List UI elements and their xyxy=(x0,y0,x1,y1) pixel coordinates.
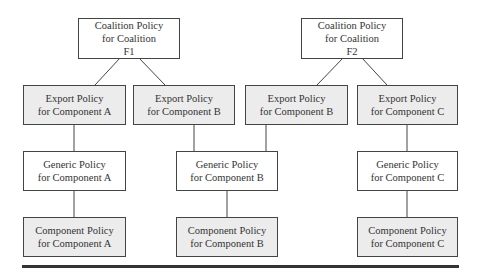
box-text-line: for Component C xyxy=(371,105,445,118)
box-text-line: for Component A xyxy=(38,171,112,184)
box-text-line: F1 xyxy=(123,45,134,58)
box-text-line: Generic Policy xyxy=(196,158,259,171)
box-text-line: Component Policy xyxy=(368,224,446,237)
box-text-line: for Component B xyxy=(190,237,264,250)
box-text-line: Export Policy xyxy=(45,92,103,105)
box-text-line: for Component B xyxy=(147,105,221,118)
component-policy-a-box: Component Policy for Component A xyxy=(23,217,126,257)
export-policy-a-box: Export Policy for Component A xyxy=(23,85,126,125)
component-policy-b-box: Component Policy for Component B xyxy=(176,217,278,257)
box-text-line: for Coalition xyxy=(102,32,156,45)
coalition-policy-f2-box: Coalition Policy for Coalition F2 xyxy=(301,18,403,59)
export-policy-b-f2-box: Export Policy for Component B xyxy=(245,85,348,125)
component-policy-c-box: Component Policy for Component C xyxy=(357,217,458,257)
box-text-line: Export Policy xyxy=(378,92,436,105)
bottom-rule-divider xyxy=(22,265,459,268)
box-text-line: Export Policy xyxy=(267,92,325,105)
box-text-line: Component Policy xyxy=(35,224,113,237)
box-text-line: Coalition Policy xyxy=(318,19,387,32)
box-text-line: Coalition Policy xyxy=(95,19,164,32)
box-text-line: Component Policy xyxy=(188,224,266,237)
box-text-line: for Component B xyxy=(190,171,264,184)
box-text-line: for Coalition xyxy=(325,32,379,45)
box-text-line: Generic Policy xyxy=(43,158,106,171)
export-policy-b-f1-box: Export Policy for Component B xyxy=(133,85,235,125)
box-text-line: Export Policy xyxy=(155,92,213,105)
generic-policy-a-box: Generic Policy for Component A xyxy=(23,151,126,191)
box-text-line: for Component C xyxy=(371,171,445,184)
box-text-line: for Component C xyxy=(371,237,445,250)
box-text-line: F2 xyxy=(346,45,357,58)
export-policy-c-box: Export Policy for Component C xyxy=(357,85,458,125)
box-text-line: for Component A xyxy=(38,237,112,250)
generic-policy-b-box: Generic Policy for Component B xyxy=(176,151,278,191)
box-text-line: for Component B xyxy=(260,105,334,118)
generic-policy-c-box: Generic Policy for Component C xyxy=(357,151,458,191)
box-text-line: Generic Policy xyxy=(376,158,439,171)
coalition-policy-f1-box: Coalition Policy for Coalition F1 xyxy=(78,18,180,59)
box-text-line: for Component A xyxy=(38,105,112,118)
